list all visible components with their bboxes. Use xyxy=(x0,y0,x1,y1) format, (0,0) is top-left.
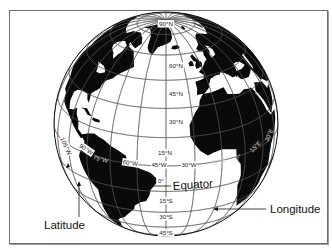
latitude-label: 45°S xyxy=(159,229,172,236)
latitude-label: 0° xyxy=(158,177,164,184)
latitude-label: 30°N xyxy=(169,118,183,125)
longitude-label: 45°W xyxy=(151,161,166,168)
longitude-label: 30°W xyxy=(181,161,196,168)
latitude-label: 30°S xyxy=(159,213,172,220)
longitude-label: Longitude xyxy=(270,203,321,215)
globe-diagram: 90°N60°N45°N30°N15°N0°15°S30°S45°S105°W9… xyxy=(0,0,332,250)
latitude-label: 45°N xyxy=(169,90,183,97)
latitude-label: 15°S xyxy=(159,197,172,204)
latitude-label: 15°N xyxy=(158,149,172,156)
latitude-annotation: Latitude xyxy=(44,181,85,231)
latitude-label: Latitude xyxy=(44,219,85,231)
latitude-label: 90°N xyxy=(159,20,173,27)
latitude-label: 60°N xyxy=(169,62,183,69)
